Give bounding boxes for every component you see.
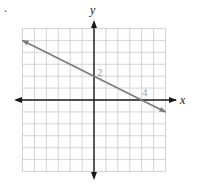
x-axis-label: x bbox=[179, 93, 186, 107]
y-axis-up-arrow-icon bbox=[91, 20, 97, 28]
y-axis-label: y bbox=[89, 3, 96, 17]
y-intercept-label: 2 bbox=[97, 66, 103, 78]
x-axis: x bbox=[14, 93, 186, 107]
coordinate-plane: . x y 2 4 bbox=[0, 0, 197, 188]
x-axis-left-arrow-icon bbox=[14, 97, 22, 103]
figure-marker: . bbox=[4, 1, 7, 15]
y-axis-down-arrow-icon bbox=[91, 172, 97, 180]
x-intercept-label: 4 bbox=[142, 86, 148, 98]
x-axis-right-arrow-icon bbox=[169, 97, 177, 103]
y-axis: y bbox=[89, 3, 97, 180]
